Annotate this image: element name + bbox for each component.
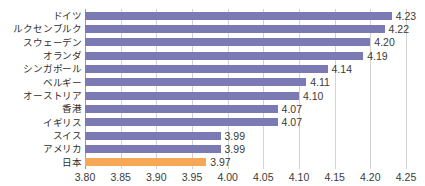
bar-row: 4.11 <box>85 76 406 89</box>
bar <box>85 65 328 73</box>
bar-value-label: 4.07 <box>282 103 302 115</box>
category-label: 日本 <box>2 156 82 169</box>
bar <box>85 12 392 20</box>
bar-highlight <box>85 158 206 166</box>
bar-row: 3.99 <box>85 142 406 155</box>
bar-row: 4.23 <box>85 9 406 22</box>
bar-value-label: 4.10 <box>303 90 323 102</box>
bar-row: 4.20 <box>85 36 406 49</box>
bar-row: 4.07 <box>85 102 406 115</box>
plot-area: 4.234.224.204.194.144.114.104.074.073.99… <box>85 9 406 169</box>
bar-value-label: 4.22 <box>389 23 409 35</box>
x-axis-tick-labels: 3.803.853.903.954.004.054.104.154.204.25 <box>0 170 425 186</box>
category-label: ベルギー <box>2 76 82 89</box>
bar <box>85 105 278 113</box>
category-label: イギリス <box>2 116 82 129</box>
bar-value-label: 3.99 <box>225 130 245 142</box>
bar-value-label: 4.19 <box>367 50 387 62</box>
bar-row: 3.97 <box>85 156 406 169</box>
bar-value-label: 4.11 <box>310 76 330 88</box>
bar <box>85 78 306 86</box>
bar <box>85 52 363 60</box>
category-label: ルクセンブルク <box>2 22 82 35</box>
category-label: シンガポール <box>2 62 82 75</box>
bar-value-label: 4.23 <box>396 10 416 22</box>
bar-value-label: 4.14 <box>332 63 352 75</box>
category-axis: ドイツルクセンブルクスウェーデンオランダシンガポールベルギーオーストリア香港イギ… <box>0 9 82 169</box>
bar-row: 4.22 <box>85 22 406 35</box>
category-label: スイス <box>2 129 82 142</box>
category-label: 香港 <box>2 102 82 115</box>
bar-row: 3.99 <box>85 129 406 142</box>
x-tick-label: 4.25 <box>383 170 425 184</box>
bar-row: 4.07 <box>85 116 406 129</box>
bar <box>85 145 221 153</box>
category-label: オーストリア <box>2 89 82 102</box>
bar <box>85 92 299 100</box>
bar-value-label: 4.20 <box>374 36 394 48</box>
bar-row: 4.19 <box>85 49 406 62</box>
bar-value-label: 3.97 <box>210 156 230 168</box>
bar <box>85 25 385 33</box>
category-label: スウェーデン <box>2 36 82 49</box>
bar-row: 4.14 <box>85 62 406 75</box>
bar <box>85 38 370 46</box>
bar-value-label: 3.99 <box>225 143 245 155</box>
bar <box>85 118 278 126</box>
horizontal-bar-chart: ドイツルクセンブルクスウェーデンオランダシンガポールベルギーオーストリア香港イギ… <box>0 0 425 186</box>
category-label: アメリカ <box>2 142 82 155</box>
bar <box>85 132 221 140</box>
category-label: ドイツ <box>2 9 82 22</box>
bar-row: 4.10 <box>85 89 406 102</box>
category-label: オランダ <box>2 49 82 62</box>
bar-value-label: 4.07 <box>282 116 302 128</box>
